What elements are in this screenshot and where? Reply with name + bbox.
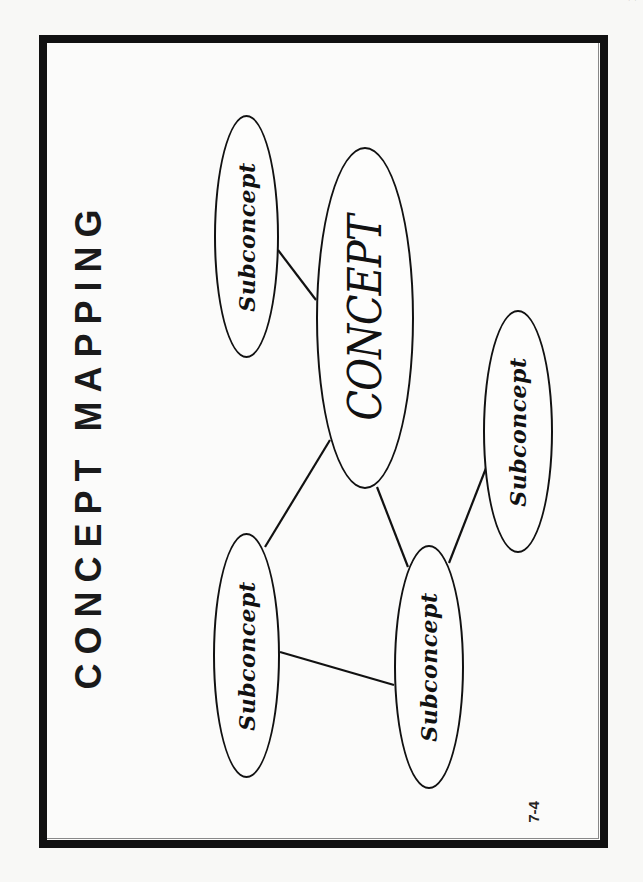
page-number: 7-4 bbox=[525, 801, 542, 823]
edge-subbottomleft-subbottommiddle bbox=[280, 652, 394, 685]
node-sub-bottom-middle: Subconcept bbox=[394, 545, 464, 789]
node-label: Subconcept bbox=[234, 162, 260, 311]
node-concept: CONCEPT bbox=[316, 147, 414, 489]
node-label: Subconcept bbox=[416, 592, 442, 741]
edge-subtop-concept bbox=[278, 250, 316, 300]
node-sub-right: Subconcept bbox=[483, 310, 553, 553]
node-sub-top: Subconcept bbox=[214, 115, 279, 358]
node-label: Subconcept bbox=[234, 581, 260, 730]
edge-subbottommiddle-subright bbox=[449, 463, 488, 563]
edge-concept-subbottomleft bbox=[265, 440, 330, 547]
node-label: CONCEPT bbox=[339, 216, 392, 421]
node-label: Subconcept bbox=[505, 357, 531, 506]
slide-title: CONCEPT MAPPING bbox=[68, 200, 110, 689]
edge-concept-subbottommiddle bbox=[377, 487, 408, 567]
node-sub-bottom-left: Subconcept bbox=[213, 533, 280, 778]
